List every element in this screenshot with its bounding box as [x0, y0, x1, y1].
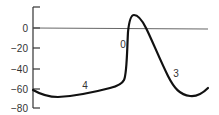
phase-0-label: 0 [120, 39, 126, 50]
phase-3-label: 3 [173, 68, 179, 79]
tick-label-neg80: −80 [11, 103, 28, 114]
tick-label-neg60: −60 [11, 84, 28, 95]
phase-4-label: 4 [82, 80, 88, 91]
zero-reference-line [33, 28, 208, 29]
chart-svg: 0 −20 −40 −60 −80 4 0 3 [0, 0, 219, 115]
tick-label-0: 0 [22, 23, 28, 34]
tick-label-neg20: −20 [11, 43, 28, 54]
action-potential-curve [33, 15, 208, 97]
tick-label-neg40: −40 [11, 64, 28, 75]
action-potential-diagram: 0 −20 −40 −60 −80 4 0 3 [0, 0, 219, 115]
